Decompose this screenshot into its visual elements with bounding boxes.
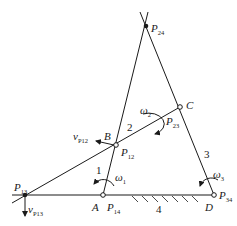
label-p13: P13 — [13, 181, 27, 195]
label-link-4: 4 — [156, 203, 162, 215]
label-a: A — [91, 201, 99, 213]
label-link-2: 2 — [127, 121, 133, 133]
label-p34: P34 — [218, 189, 233, 203]
p24-point — [144, 24, 149, 29]
four-bar-linkage-diagram: P24 C P23 B P12 vP12 P13 vP13 A P14 D P3… — [0, 0, 237, 226]
label-c: C — [186, 99, 194, 111]
joint-a — [101, 193, 106, 198]
omega-1-arc — [94, 180, 114, 186]
label-link-1: 1 — [96, 164, 102, 176]
label-d: D — [204, 201, 213, 213]
link-3-extension-line — [140, 12, 214, 195]
label-omega-2: ω2 — [140, 104, 151, 118]
label-link-3: 3 — [204, 148, 210, 160]
link-2-extension-line — [12, 107, 180, 203]
label-p24: P24 — [150, 22, 165, 36]
joint-b — [114, 143, 119, 148]
ground-hatching — [132, 196, 198, 202]
label-b: B — [104, 130, 111, 142]
omega-2-arc — [143, 113, 164, 134]
label-omega-1: ω1 — [115, 171, 126, 185]
joint-d — [212, 193, 217, 198]
label-omega-3: ω3 — [213, 168, 224, 182]
label-v-p12: vP12 — [73, 130, 88, 144]
label-v-p13: vP13 — [28, 203, 43, 217]
label-p23: P23 — [165, 115, 179, 129]
label-p14: P14 — [106, 201, 121, 215]
label-p12: P12 — [120, 146, 134, 160]
joint-c — [178, 105, 183, 110]
